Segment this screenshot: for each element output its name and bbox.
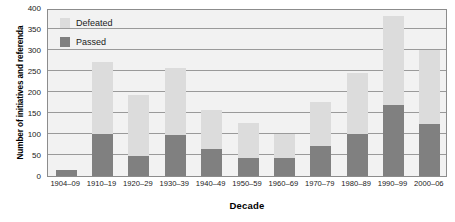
- bar-segment-defeated: [128, 95, 149, 155]
- bar-segment-defeated: [383, 16, 404, 105]
- bar-1920–29: [128, 95, 149, 176]
- x-tick-label: 1920–29: [123, 180, 153, 188]
- y-tick-label: 350: [28, 26, 41, 34]
- bar-1960–69: [274, 134, 295, 176]
- bars-layer: [48, 10, 446, 176]
- bar-segment-defeated: [165, 68, 186, 136]
- y-tick-label: 50: [32, 152, 41, 160]
- bar-1990–99: [383, 16, 404, 176]
- bar-segment-passed: [56, 170, 77, 176]
- x-tick-label: 1970–79: [305, 180, 335, 188]
- bar-1980–89: [347, 73, 368, 176]
- y-tick-label: 400: [28, 5, 41, 13]
- bar-1904–09: [56, 170, 77, 176]
- bar-segment-passed: [165, 135, 186, 176]
- x-tick-label: 1960–69: [269, 180, 299, 188]
- bar-segment-passed: [274, 158, 295, 176]
- x-tick-label: 1930–39: [159, 180, 189, 188]
- bar-1910–19: [92, 62, 113, 176]
- bar-segment-passed: [92, 134, 113, 176]
- x-tick-label: 1990–99: [378, 180, 408, 188]
- bar-1940–49: [201, 110, 222, 176]
- bar-segment-defeated: [238, 123, 259, 159]
- x-axis-tick-labels: 1904–091910–191920–291930–391940–491950–…: [47, 180, 447, 194]
- bar-1930–39: [165, 68, 186, 176]
- bar-2000–06: [419, 50, 440, 176]
- y-tick-label: 300: [28, 47, 41, 55]
- y-tick-label: 150: [28, 110, 41, 118]
- x-axis-title: Decade: [47, 200, 447, 211]
- bar-segment-passed: [238, 158, 259, 176]
- bar-segment-defeated: [92, 62, 113, 134]
- bar-segment-passed: [128, 156, 149, 176]
- x-tick-label: 1940–49: [196, 180, 226, 188]
- x-tick-label: 1904–09: [50, 180, 80, 188]
- bar-segment-passed: [383, 105, 404, 176]
- bar-1970–79: [310, 102, 331, 176]
- x-tick-label: 2000–06: [414, 180, 444, 188]
- bar-segment-defeated: [347, 73, 368, 133]
- plot-area: DefeatedPassed: [47, 9, 447, 177]
- bar-segment-passed: [310, 146, 331, 176]
- bar-segment-defeated: [201, 110, 222, 149]
- y-axis-tick-labels: 050100150200250300350400: [14, 8, 44, 176]
- bar-segment-defeated: [419, 50, 440, 125]
- bar-1950–59: [238, 123, 259, 176]
- y-tick-label: 250: [28, 68, 41, 76]
- y-tick-label: 200: [28, 89, 41, 97]
- bar-segment-passed: [347, 134, 368, 176]
- bar-segment-defeated: [310, 102, 331, 146]
- y-tick-label: 0: [37, 173, 41, 181]
- bar-segment-passed: [201, 149, 222, 176]
- x-tick-label: 1950–59: [232, 180, 262, 188]
- chart-figure: Number of initiatives and referenda 0501…: [0, 0, 455, 222]
- x-tick-label: 1910–19: [87, 180, 117, 188]
- x-tick-label: 1980–89: [341, 180, 371, 188]
- y-tick-label: 100: [28, 131, 41, 139]
- bar-segment-defeated: [274, 134, 295, 158]
- bar-segment-passed: [419, 124, 440, 176]
